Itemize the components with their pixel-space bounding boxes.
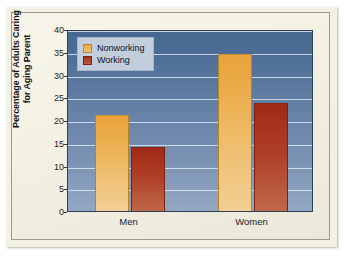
y-tick-label: 40 (42, 26, 64, 35)
y-tick-label: 5 (42, 185, 64, 194)
y-axis-ticks: 0510152025303540 (40, 30, 64, 212)
legend-item-working: Working (83, 54, 145, 66)
legend-label-nonworking: Nonworking (97, 43, 145, 53)
y-tick-label: 30 (42, 71, 64, 80)
legend-label-working: Working (97, 55, 130, 65)
bar-women-nonworking (218, 54, 252, 211)
y-axis-title: Percentage of Adults Caring for Aging Pa… (11, 0, 33, 139)
y-tick-label: 25 (42, 94, 64, 103)
x-tick-label-women: Women (212, 216, 292, 227)
bar-men-nonworking (95, 115, 129, 211)
y-tick-label: 0 (42, 208, 64, 217)
legend-swatch-nonworking (83, 44, 92, 53)
y-tick-mark (64, 144, 67, 145)
y-tick-mark (64, 53, 67, 54)
legend-item-nonworking: Nonworking (83, 42, 145, 54)
bar-women-working (254, 103, 288, 211)
y-tick-mark (64, 76, 67, 77)
legend-swatch-working (83, 56, 92, 65)
gridline (68, 77, 312, 78)
y-tick-mark (64, 212, 67, 213)
plot-area: Nonworking Working (67, 30, 313, 212)
chart-figure: Percentage of Adults Caring for Aging Pa… (0, 0, 345, 258)
y-tick-mark (64, 189, 67, 190)
y-tick-mark (64, 121, 67, 122)
y-axis-title-line-2: for Aging Parent (22, 0, 33, 139)
chart-legend: Nonworking Working (77, 37, 154, 71)
y-tick-label: 20 (42, 117, 64, 126)
x-tick-label-men: Men (89, 216, 169, 227)
y-tick-label: 10 (42, 162, 64, 171)
y-tick-mark (64, 30, 67, 31)
y-tick-label: 15 (42, 139, 64, 148)
gridline (68, 99, 312, 100)
bar-men-working (131, 147, 165, 211)
y-tick-label: 35 (42, 48, 64, 57)
y-tick-mark (64, 167, 67, 168)
gridline (68, 31, 312, 32)
y-tick-mark (64, 98, 67, 99)
y-axis-title-line-1: Percentage of Adults Caring (11, 0, 22, 139)
